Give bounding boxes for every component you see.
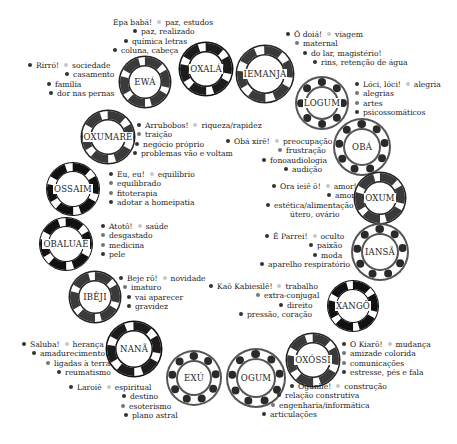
bullet-icon — [124, 39, 128, 43]
item: do lar, magistério! — [311, 49, 382, 58]
labels-logum: Lóci, lóci!alegria alegrias artes psicos… — [355, 80, 441, 118]
item: destino — [130, 392, 158, 401]
ring-logum: LOGUM — [297, 78, 347, 128]
labels-xango: Kaô Kabiesilê!trabalho extra-conjugal di… — [209, 282, 318, 320]
item: moda — [321, 251, 342, 260]
bullet-icon — [303, 51, 307, 55]
item: direito — [287, 301, 312, 310]
ring-obaluae: OBALUAÊ — [40, 218, 92, 270]
bullet-icon — [262, 412, 266, 416]
greeting: Saluba! — [30, 340, 60, 349]
item: ligadas à terra — [54, 359, 110, 368]
bullet-icon — [336, 384, 340, 388]
greeting: Rirró! — [36, 61, 59, 70]
labels-exu: Laroiêespiritual destino esoterismo plan… — [69, 383, 151, 421]
bullet-icon — [65, 72, 69, 76]
keyword: novidade — [171, 274, 206, 283]
item: comunicações — [350, 359, 404, 368]
item: pressão, coração — [247, 310, 312, 319]
bullet-icon — [65, 342, 69, 346]
item: artes — [363, 99, 383, 108]
bullet-icon — [256, 293, 260, 297]
item: química letras — [132, 37, 187, 46]
item: fonoaudiologia — [270, 156, 327, 165]
ring-label: OXUMARÊ — [83, 132, 134, 142]
ring-label: EXÚ — [183, 373, 205, 383]
bullet-icon — [355, 101, 359, 105]
item: gravidez — [135, 302, 168, 311]
bullet-icon — [284, 167, 288, 171]
bullet-icon — [22, 342, 26, 346]
ring-label: OSSAIM — [53, 184, 93, 194]
bullet-icon — [32, 351, 36, 355]
bullet-icon — [57, 370, 61, 374]
item: pele — [109, 250, 125, 259]
item: problemas vão e voltam — [141, 149, 233, 158]
item: amor! — [335, 191, 358, 200]
bullet-icon — [279, 303, 283, 307]
ring-label: IBÊJI — [82, 292, 108, 302]
keyword: oculto — [321, 232, 345, 241]
bullet-icon — [109, 200, 113, 204]
greeting: Eu, eu! — [117, 170, 145, 179]
item: paz, realizado — [141, 27, 195, 36]
bullet-icon — [127, 304, 131, 308]
labels-ossaim: Eu, eu!equilíbrio equilibrado fitoterapi… — [109, 170, 195, 208]
bullet-icon — [101, 243, 105, 247]
bullet-icon — [138, 224, 142, 228]
greeting: Beje rô! — [127, 274, 158, 283]
bullet-icon — [275, 139, 279, 143]
labels-oxala: Epa babá!paz, estudos paz, realizado quí… — [113, 18, 213, 56]
bullet-icon — [290, 384, 294, 388]
bullet-icon — [133, 29, 137, 33]
item: dor nas pernas — [57, 89, 115, 98]
item: útero, ovário — [290, 210, 340, 219]
item: traição — [145, 130, 172, 139]
bullet-icon — [309, 243, 313, 247]
item: equilibrado — [117, 179, 161, 188]
bullet-icon — [277, 284, 281, 288]
bullet-icon — [101, 233, 105, 237]
greeting: Epa babá! — [113, 18, 152, 27]
bullet-icon — [109, 181, 113, 185]
bullet-icon — [109, 191, 113, 195]
bullet-icon — [69, 385, 73, 389]
item: aparelho respiratório — [268, 260, 350, 269]
bullet-icon — [209, 284, 213, 288]
bullet-icon — [137, 123, 141, 127]
labels-oba: Obá xirê!preocupação frustração fonoaudi… — [226, 137, 332, 175]
greeting: Ora ieiê ô! — [280, 182, 321, 191]
labels-iansa: É Parrei!oculto paixão moda aparelho res… — [260, 232, 350, 270]
bullet-icon — [355, 82, 359, 86]
bullet-icon — [239, 312, 243, 316]
item: reumatismo — [65, 368, 111, 377]
item: extra-conjugal — [264, 291, 319, 300]
ring-label: OXALÁ — [189, 64, 223, 74]
bullet-icon — [286, 32, 290, 36]
keyword: equilíbrio — [158, 170, 195, 179]
labels-obaluae: Atotô!saúde desgastado medicina pele — [101, 222, 168, 260]
keyword: preocupação — [283, 137, 332, 146]
bullet-icon — [119, 276, 123, 280]
item: fitoterapia — [117, 189, 157, 198]
item: amadurecimento — [40, 349, 105, 358]
greeting: Ó doiá! — [294, 30, 322, 39]
item: desgastado — [109, 231, 153, 240]
item: estética/alimentação — [274, 201, 354, 210]
keyword: trabalho — [285, 282, 318, 291]
ring-iemanja: IEMANJÁ — [237, 46, 293, 102]
bullet-icon — [342, 342, 346, 346]
keyword: construção — [344, 382, 387, 391]
bullet-icon — [342, 361, 346, 365]
bullet-icon — [150, 172, 154, 176]
bullet-icon — [265, 234, 269, 238]
orixa-circle-diagram: OXALÁ IEMANJÁ EWÁ LOGUM OXUMARÊ OBÁ OSSA… — [0, 0, 457, 444]
bullet-icon — [342, 351, 346, 355]
labels-ogum: Ogunhê!construção relação construtiva en… — [262, 382, 361, 420]
ring-ibeji: IBÊJI — [70, 272, 120, 322]
item: família — [55, 80, 81, 89]
bullet-icon — [123, 285, 127, 289]
bullet-icon — [133, 151, 137, 155]
item: articulações — [270, 410, 317, 419]
item: engenharia/informática — [279, 401, 370, 410]
